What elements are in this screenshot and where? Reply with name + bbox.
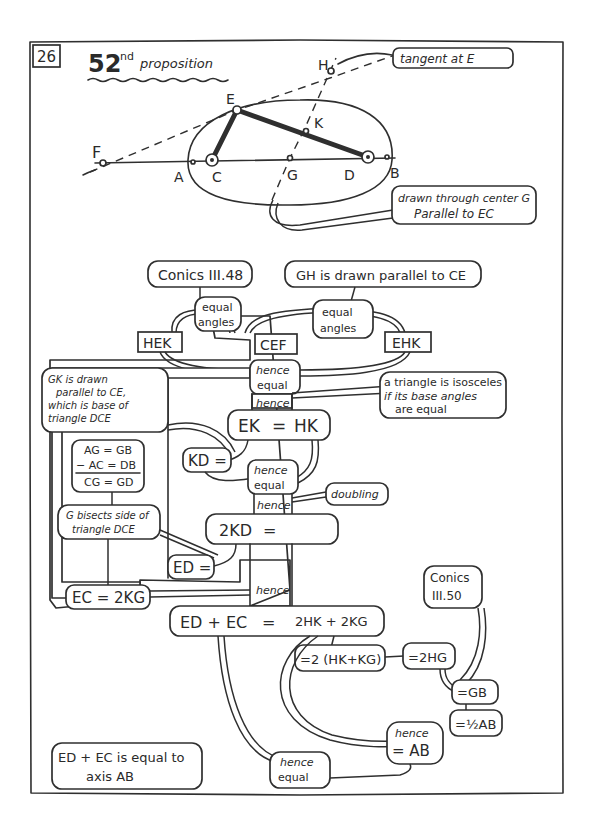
isosceles-note-line1: a triangle is isosceles — [384, 376, 502, 389]
conclusion-line1: ED + EC is equal to — [58, 750, 185, 765]
proposition-sketch: 26 52 nd proposition F A C E K G D — [0, 0, 589, 835]
gh-parallel-note: GH is drawn parallel to CE — [296, 268, 466, 283]
conics-iii-50-line1: Conics — [430, 571, 470, 585]
eq-gb: =GB — [457, 685, 487, 700]
doubling-note: doubling — [331, 488, 379, 501]
sum-left-term: ED + EC — [180, 613, 247, 632]
point-label-g: G — [287, 167, 298, 183]
hence-equal-1-line1: hence — [256, 364, 290, 377]
ek-term: EK — [238, 416, 261, 436]
hence-equal-1-line2: equal — [257, 379, 288, 392]
eq-half-ab: =½AB — [455, 717, 496, 732]
hence-equal-2-line2: equal — [254, 479, 285, 492]
through-center-note-line1: drawn through center G — [398, 192, 530, 205]
point-label-c: C — [212, 169, 222, 185]
two-kd-equals: = — [263, 521, 276, 540]
conclusion-line2: axis AB — [86, 769, 134, 784]
hk-term: HK — [294, 416, 319, 436]
title-suffix: nd — [120, 50, 134, 63]
subtraction-line3: CG = GD — [84, 476, 133, 489]
ed-eq: ED = — [173, 559, 211, 577]
equal-angles-1-line2: angles — [198, 316, 235, 329]
equal-angles-2-line1: equal — [322, 306, 353, 319]
angle-ehk: EHK — [392, 335, 421, 351]
subtraction-line2: − AC = DB — [76, 459, 136, 472]
title-underline — [88, 79, 228, 82]
hence-ab-line2: = AB — [392, 742, 430, 760]
hence-equal-3-line1: hence — [280, 756, 314, 769]
equal-angles-1-line1: equal — [202, 301, 233, 314]
point-label-d: D — [344, 167, 355, 183]
hence-equal-3-line2: equal — [278, 771, 309, 784]
point-label-b: B — [390, 165, 400, 181]
kd-eq: KD = — [188, 452, 227, 470]
isosceles-note-line2: if its base angles — [384, 390, 477, 403]
gk-note-line2: parallel to CE, — [55, 387, 126, 398]
conics-iii-50-line2: III.50 — [432, 589, 462, 603]
point-label-k: K — [314, 115, 324, 131]
hence-1: hence — [256, 397, 290, 410]
two-kd-term: 2KD — [219, 521, 252, 540]
angle-hek: HEK — [143, 335, 172, 351]
ek-hk-equals: = — [272, 416, 286, 436]
hence-equal-2-line1: hence — [254, 464, 288, 477]
factor-expression: =2 (HK+KG) — [300, 652, 381, 667]
through-center-note-line2: Parallel to EC — [414, 207, 495, 221]
hence-3: hence — [256, 584, 290, 597]
sum-right-term: 2HK + 2KG — [295, 614, 368, 629]
gk-note-line1: GK is drawn — [48, 374, 108, 385]
subtraction-line1: AG = GB — [84, 444, 132, 457]
ec-eq-2kg: EC = 2KG — [72, 589, 145, 607]
g-bisects-line2: triangle DCE — [72, 524, 135, 535]
point-label-h: H — [318, 57, 329, 73]
gk-note-line3: which is base of — [48, 400, 130, 411]
two-hg: =2HG — [408, 650, 447, 665]
title-number: 52 — [88, 50, 121, 78]
hence-2: hence — [257, 499, 291, 512]
point-label-e: E — [226, 91, 235, 107]
sum-equals: = — [262, 613, 275, 632]
gk-note-line4: triangle DCE — [48, 413, 111, 424]
point-label-f: F — [92, 143, 101, 162]
conics-iii-48: Conics III.48 — [158, 267, 243, 283]
hence-ab-line1: hence — [395, 727, 429, 740]
equal-angles-2-line2: angles — [320, 322, 357, 335]
title-text: proposition — [139, 56, 213, 71]
angle-cef: CEF — [260, 337, 287, 353]
page-number: 26 — [37, 48, 56, 66]
g-bisects-line1: G bisects side of — [66, 510, 150, 521]
tangent-note: tangent at E — [400, 52, 475, 66]
isosceles-note-line3: are equal — [395, 403, 447, 416]
point-label-a: A — [174, 169, 184, 185]
